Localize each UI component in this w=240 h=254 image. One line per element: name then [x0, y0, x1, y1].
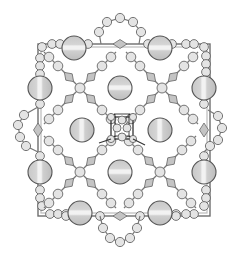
small-atom	[115, 13, 124, 22]
large-atom	[148, 118, 172, 142]
large-atom	[148, 201, 172, 225]
small-atom	[190, 210, 199, 219]
large-atom	[148, 36, 172, 60]
small-atom	[44, 114, 54, 124]
small-atom	[188, 52, 198, 62]
small-atom	[113, 124, 121, 132]
large-atom	[68, 201, 92, 225]
small-atom	[200, 43, 209, 52]
small-atom	[200, 100, 209, 109]
small-atom	[106, 52, 116, 62]
small-atom	[15, 132, 24, 141]
small-atom	[129, 113, 136, 120]
large-atom	[28, 76, 52, 100]
small-atom	[94, 27, 103, 36]
small-atom	[38, 43, 47, 52]
small-atom	[102, 17, 111, 26]
small-atom	[202, 52, 211, 61]
small-atom	[186, 136, 196, 146]
small-atom	[172, 212, 181, 221]
small-atom	[19, 110, 28, 119]
small-atom	[188, 114, 198, 124]
small-atom	[36, 186, 45, 195]
large-atom	[192, 76, 216, 100]
small-atom	[133, 145, 143, 155]
small-atom	[123, 124, 131, 132]
small-atom	[98, 223, 107, 232]
small-atom	[125, 233, 134, 242]
small-atom	[135, 105, 145, 115]
small-atom	[190, 40, 199, 49]
small-atom	[118, 116, 126, 124]
small-atom	[135, 61, 145, 71]
small-atom	[36, 194, 45, 203]
small-atom	[202, 194, 211, 203]
small-atom	[132, 223, 141, 232]
small-atom	[53, 189, 63, 199]
small-atom	[155, 167, 165, 177]
small-atom	[126, 52, 136, 62]
small-atom	[157, 83, 167, 93]
large-atom	[108, 76, 132, 100]
small-atom	[53, 61, 63, 71]
small-atom	[106, 198, 116, 208]
small-atom	[46, 210, 55, 219]
small-atom	[53, 105, 63, 115]
small-atom	[44, 198, 54, 208]
small-atom	[36, 54, 45, 63]
small-atom	[136, 27, 145, 36]
small-atom	[200, 152, 209, 161]
molecular-structure-diagram	[0, 0, 240, 254]
small-atom	[36, 152, 45, 161]
large-atom	[192, 160, 216, 184]
x-clusters	[44, 52, 198, 208]
small-atom	[213, 111, 222, 120]
small-atom	[13, 120, 22, 129]
small-atom	[182, 210, 191, 219]
small-atom	[128, 17, 137, 26]
small-atom	[48, 40, 57, 49]
small-atom	[118, 133, 126, 141]
small-atom	[133, 189, 143, 199]
small-atom	[115, 237, 124, 246]
small-atom	[54, 210, 63, 219]
small-atom	[202, 186, 211, 195]
large-atom	[70, 118, 94, 142]
small-atom	[21, 141, 30, 150]
small-atom	[97, 61, 107, 71]
small-atom	[205, 141, 214, 150]
large-atom	[28, 160, 52, 184]
small-atom	[179, 61, 189, 71]
small-atom	[97, 189, 107, 199]
small-atom	[177, 145, 187, 155]
small-atom	[213, 135, 222, 144]
small-atom	[36, 62, 45, 71]
small-atom	[202, 68, 211, 77]
small-atom	[186, 198, 196, 208]
small-atom	[124, 198, 134, 208]
small-atom	[44, 52, 54, 62]
small-atom	[182, 40, 191, 49]
small-atom	[97, 145, 107, 155]
small-atom	[217, 123, 226, 132]
small-atom	[105, 233, 114, 242]
small-atom	[202, 60, 211, 69]
small-atom	[177, 189, 187, 199]
small-atom	[179, 105, 189, 115]
large-atom	[108, 160, 132, 184]
small-atom	[44, 136, 54, 146]
small-atom	[75, 167, 85, 177]
large-atom	[62, 36, 86, 60]
small-atom	[200, 202, 209, 211]
small-atom	[107, 113, 114, 120]
small-atom	[53, 145, 63, 155]
small-atom	[97, 105, 107, 115]
small-atom	[75, 83, 85, 93]
